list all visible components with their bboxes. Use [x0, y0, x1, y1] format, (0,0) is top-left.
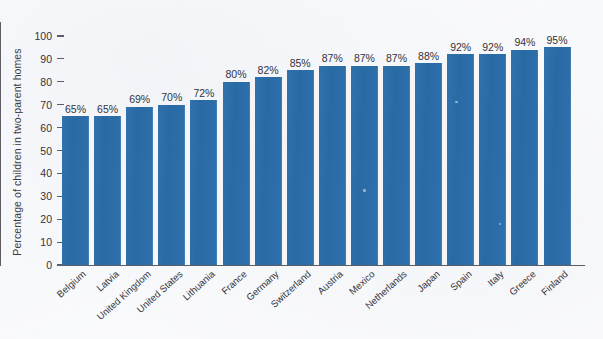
bar[interactable] — [447, 54, 474, 265]
bar-value-label: 94% — [507, 37, 542, 48]
bar[interactable] — [511, 50, 538, 265]
bar-value-label: 70% — [154, 92, 189, 103]
y-axis-tick-label: 100 — [24, 31, 52, 42]
y-axis-tick-label: 60 — [24, 123, 52, 134]
scan-artifact — [499, 223, 502, 226]
bar[interactable] — [255, 77, 282, 265]
y-axis-line — [0, 22, 1, 266]
bar[interactable] — [190, 100, 217, 265]
bar[interactable] — [383, 66, 410, 265]
bar-value-label: 85% — [283, 58, 318, 69]
y-axis-tick-label: 20 — [24, 214, 52, 225]
bar[interactable] — [62, 116, 89, 265]
bar-value-label: 92% — [475, 42, 510, 53]
bar-value-label: 80% — [219, 69, 254, 80]
y-axis-tick-label: 90 — [24, 54, 52, 65]
y-axis-tick-label: 30 — [24, 191, 52, 202]
y-axis-tick-label: 40 — [24, 168, 52, 179]
bar[interactable] — [319, 66, 346, 265]
bar-value-label: 72% — [186, 88, 221, 99]
bar[interactable] — [415, 63, 442, 265]
bar[interactable] — [351, 66, 378, 265]
y-axis-tick-label: 70 — [24, 100, 52, 111]
scan-artifact — [363, 189, 366, 192]
bar[interactable] — [94, 116, 121, 265]
bar[interactable] — [479, 54, 506, 265]
bar-value-label: 87% — [379, 53, 414, 64]
bar-value-label: 88% — [411, 51, 446, 62]
bar-chart-figure: Percentage of children in two-parent hom… — [0, 0, 603, 339]
bar-value-label: 65% — [90, 104, 125, 115]
bar[interactable] — [287, 70, 314, 265]
bar[interactable] — [223, 82, 250, 265]
bar-value-label: 87% — [347, 53, 382, 64]
y-axis-tick — [57, 35, 64, 36]
scan-artifact — [455, 101, 458, 104]
y-axis-tick-label: 10 — [24, 237, 52, 248]
bar-value-label: 87% — [315, 53, 350, 64]
bar-value-label: 65% — [58, 104, 93, 115]
bar[interactable] — [126, 107, 153, 265]
bar-value-label: 92% — [443, 42, 478, 53]
y-axis-tick — [57, 58, 64, 59]
bar-value-label: 82% — [251, 65, 286, 76]
bar[interactable] — [158, 105, 185, 265]
y-axis-tick — [57, 81, 64, 82]
x-axis-line — [57, 265, 585, 266]
y-axis-tick-label: 0 — [24, 260, 52, 271]
bar[interactable] — [544, 47, 571, 265]
bar-value-label: 69% — [122, 94, 157, 105]
y-axis-tick-label: 80 — [24, 77, 52, 88]
bar-value-label: 95% — [540, 35, 575, 46]
y-axis-tick-label: 50 — [24, 146, 52, 157]
